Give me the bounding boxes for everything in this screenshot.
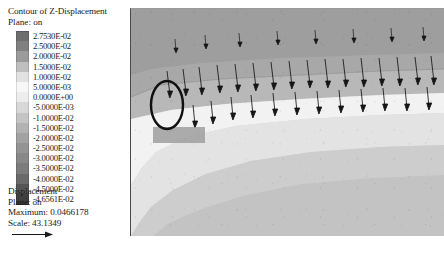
legend-value-label: 1.5000E-02 [33,62,71,72]
legend-color-swatch [16,82,29,92]
legend-value-label: 2.5000E-02 [33,41,71,51]
legend-color-swatch [16,92,29,102]
legend-color-swatch [16,133,29,143]
legend-color-swatch [16,174,29,184]
legend-color-swatch [16,143,29,153]
legend-maximum-value: Maximum: 0.0466178 [8,207,130,218]
legend-value-label: -2.0000E-02 [33,133,73,143]
legend-color-swatch [16,123,29,133]
legend-entry: -1.5000E-02 [16,123,128,133]
legend-color-swatch [16,41,29,51]
legend-value-label: 2.0000E-02 [33,51,71,61]
legend-entry: -3.5000E-02 [16,163,128,173]
legend-entry: -2.0000E-02 [16,133,128,143]
legend-value-label: -1.0000E-02 [33,113,73,123]
contour-plot-svg [131,9,444,236]
legend-footer-plane-label: Plane: on [8,197,130,208]
legend-plane-label: Plane: on [8,17,42,28]
contour-plot-area [130,8,444,236]
legend-entry: 2.7530E-02 [16,31,128,41]
legend-value-label: -4.0000E-02 [33,174,73,184]
shear-wedge-patch [153,127,205,143]
legend-entry: 2.0000E-02 [16,51,128,61]
legend-color-swatch [16,163,29,173]
legend-entry: -1.0000E-02 [16,113,128,123]
legend-color-swatch [16,62,29,72]
legend-entry: 2.5000E-02 [16,41,128,51]
legend-value-label: 1.0000E-02 [33,72,71,82]
legend-entry: 1.5000E-02 [16,62,128,72]
legend-color-swatch [16,113,29,123]
legend-entry: 1.0000E-02 [16,72,128,82]
legend-value-label: -1.5000E-02 [33,123,73,133]
legend-color-swatch [16,51,29,61]
legend-color-swatch [16,153,29,163]
legend-value-label: 0.0000E+00 [33,92,73,102]
legend-value-label: -3.0000E-02 [33,153,73,163]
legend-color-scale: 2.7530E-022.5000E-022.0000E-021.5000E-02… [16,31,128,204]
legend-value-label: -2.5000E-02 [33,143,73,153]
legend-quantity-label: Displacement [8,186,130,197]
legend-color-swatch [16,31,29,42]
legend-value-label: 2.7530E-02 [33,31,71,41]
legend-entry: -5.0000E-03 [16,102,128,112]
legend-entry: -4.0000E-02 [16,174,128,184]
legend-entry: 0.0000E+00 [16,92,128,102]
legend-entry: -3.0000E-02 [16,153,128,163]
legend-value-label: -3.5000E-02 [33,163,73,173]
legend-color-swatch [16,72,29,82]
legend-scale-value: Scale: 43.1349 [8,218,130,229]
contour-legend-panel: Contour of Z-Displacement Plane: on 2.75… [0,0,130,253]
legend-entry: 5.0000E-03 [16,82,128,92]
legend-color-swatch [16,102,29,112]
legend-title: Contour of Z-Displacement [8,6,107,17]
legend-entry: -2.5000E-02 [16,143,128,153]
legend-value-label: 5.0000E-03 [33,82,71,92]
scale-arrow-icon [11,230,57,239]
legend-value-label: -5.0000E-03 [33,102,73,112]
